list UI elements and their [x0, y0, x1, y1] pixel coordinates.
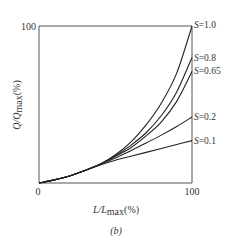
- curve-s-0-1: [39, 141, 192, 183]
- series-labels: S=1.0S=0.8S=0.65S=0.2S=0.1: [194, 20, 221, 146]
- series-label: S=0.2: [194, 112, 216, 122]
- figure-caption: (b): [110, 225, 122, 237]
- y-axis-label: Q/Qmax(%): [11, 80, 24, 129]
- x-tick-100: 100: [185, 186, 200, 197]
- series-label: S=0.1: [194, 136, 216, 146]
- series-label: S=0.8: [194, 53, 216, 63]
- x-tick-0: 0: [36, 186, 41, 197]
- curve-s-0-8: [39, 57, 192, 183]
- curve-s-0-2: [39, 117, 192, 183]
- curves: [39, 26, 192, 183]
- x-axis-label: L/Lmax(%): [92, 204, 139, 217]
- y-tick-100: 100: [21, 21, 36, 32]
- chart: S=1.0S=0.8S=0.65S=0.2S=0.1 100 0 100 L/L…: [0, 0, 230, 240]
- series-label: S=1.0: [194, 20, 216, 30]
- series-label: S=0.65: [194, 66, 221, 76]
